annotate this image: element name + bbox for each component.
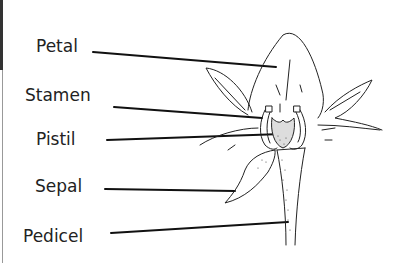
leader-line-pedicel xyxy=(111,222,288,233)
petal-outline xyxy=(248,33,323,118)
anther-right xyxy=(294,106,300,112)
leader-line-pistil xyxy=(107,134,282,140)
leader-line-petal xyxy=(93,52,276,67)
right-petal xyxy=(325,80,382,130)
pedicel-left xyxy=(277,150,286,245)
leader-line-sepal xyxy=(105,189,235,191)
sepal xyxy=(225,150,275,203)
leader-line-stamen xyxy=(114,107,262,118)
pistil xyxy=(271,118,294,148)
pedicel-right xyxy=(295,148,305,245)
flower-illustration xyxy=(0,0,393,263)
anther-left xyxy=(266,106,272,112)
left-petal xyxy=(206,68,252,115)
